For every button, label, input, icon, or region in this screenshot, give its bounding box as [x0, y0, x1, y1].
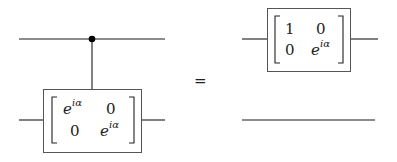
rhs-a21: 0: [285, 41, 295, 59]
lhs-a22: e: [100, 122, 109, 140]
rhs-a22-sup: iα: [320, 38, 330, 49]
lhs-a21: 0: [70, 122, 80, 140]
equals-sign: =: [194, 72, 207, 90]
rhs-a12: 0: [316, 20, 326, 38]
lhs-a12: 0: [106, 100, 116, 118]
lhs-a11-sup: iα: [72, 97, 82, 108]
rhs-gate: 1 0 0 e iα: [268, 9, 351, 72]
rhs-a11: 1: [285, 20, 295, 38]
rhs-a22: e: [311, 41, 320, 59]
lhs-a22-sup: iα: [109, 119, 119, 130]
control-dot-icon: [89, 36, 96, 43]
lhs-a11: e: [63, 100, 72, 118]
circuit-diagram: e iα 0 0 e iα = 1 0 0 e iα: [0, 0, 397, 162]
lhs-gate: e iα 0 0 e iα: [44, 90, 142, 153]
